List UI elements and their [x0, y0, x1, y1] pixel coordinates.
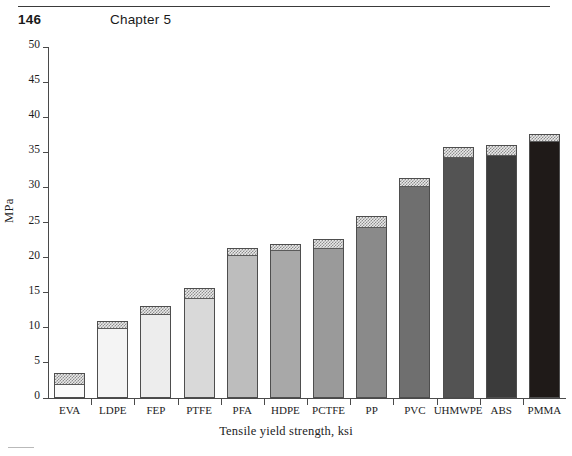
bar — [54, 373, 85, 398]
y-tick-label: 20 — [29, 250, 41, 262]
bar-hatched-cap — [141, 307, 170, 315]
bar-hatched-cap — [487, 146, 516, 157]
bar-body — [271, 245, 300, 397]
bar-body — [228, 249, 257, 397]
y-tick-mark — [43, 117, 48, 118]
bar-hatched-cap — [400, 179, 429, 187]
y-axis-line — [48, 47, 49, 399]
y-tick-mark — [43, 47, 48, 48]
y-tick-mark — [43, 362, 48, 363]
scan-artifact — [8, 447, 34, 448]
y-tick-label: 0 — [34, 390, 40, 402]
bar-hatched-cap — [228, 249, 257, 257]
bar — [443, 147, 474, 398]
bar-body — [185, 289, 214, 397]
chapter-title: Chapter 5 — [110, 12, 171, 27]
bar-body — [400, 179, 429, 397]
header-divider — [18, 6, 550, 7]
y-tick-mark — [43, 327, 48, 328]
bar-body — [530, 135, 559, 397]
y-tick-mark — [43, 82, 48, 83]
bar-hatched-cap — [314, 240, 343, 250]
bar-hatched-cap — [98, 322, 127, 329]
bar — [227, 248, 258, 398]
y-tick-mark — [43, 187, 48, 188]
bar-body — [314, 240, 343, 397]
y-tick-mark — [43, 152, 48, 153]
bar — [356, 216, 387, 398]
y-tick-mark — [43, 398, 48, 399]
page-number: 146 — [18, 12, 41, 27]
bar — [270, 244, 301, 398]
y-tick-mark — [43, 292, 48, 293]
y-tick-label: 5 — [34, 355, 40, 367]
y-axis-title: MPa — [2, 198, 17, 223]
bar — [399, 178, 430, 398]
x-tick-label: PMMA — [519, 404, 570, 416]
y-tick-label: 50 — [29, 39, 41, 51]
y-tick-label: 45 — [29, 74, 41, 86]
bar-hatched-cap — [185, 289, 214, 298]
bar-hatched-cap — [271, 245, 300, 251]
bar-hatched-cap — [530, 135, 559, 142]
bar — [529, 134, 560, 398]
y-tick-label: 30 — [29, 179, 41, 191]
y-tick-label: 35 — [29, 144, 41, 156]
bar — [313, 239, 344, 398]
bar — [184, 288, 215, 398]
bar-body — [141, 307, 170, 397]
y-tick-mark — [43, 257, 48, 258]
x-axis-title: Tensile yield strength, ksi — [0, 424, 572, 439]
y-tick-label: 40 — [29, 109, 41, 121]
y-tick-mark — [43, 222, 48, 223]
y-tick-label: 10 — [29, 320, 41, 332]
bar-body — [357, 217, 386, 397]
bar — [140, 306, 171, 398]
bar-hatched-cap — [444, 148, 473, 158]
bar-hatched-cap — [55, 374, 84, 385]
y-tick-label: 25 — [29, 215, 41, 227]
y-tick-label: 15 — [29, 285, 41, 297]
bar — [486, 145, 517, 398]
bar-hatched-cap — [357, 217, 386, 228]
bar-body — [444, 148, 473, 397]
bar-body — [98, 322, 127, 397]
bar-chart: MPa 05101520253035404550 EVALDPEFEPPTFEP… — [0, 38, 572, 438]
page-header: 146 Chapter 5 — [18, 6, 554, 36]
bar — [97, 321, 128, 398]
bar-body — [487, 146, 516, 397]
